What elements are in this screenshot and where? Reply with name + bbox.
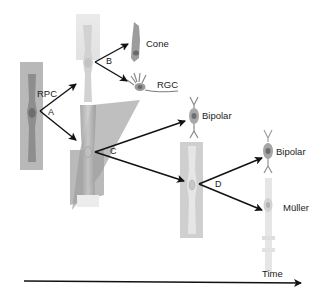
cone-body — [131, 22, 140, 62]
bipolar-cell-1 — [189, 97, 199, 138]
time-axis-arrow — [24, 281, 301, 283]
muller-endfoot-1 — [262, 236, 275, 240]
cone-nucleus — [133, 51, 139, 56]
bipolar1-axon — [190, 124, 198, 138]
early-progenitor-group — [76, 14, 100, 102]
late-progenitor-nucleus — [189, 180, 195, 190]
bipolar2-nucleus — [266, 148, 271, 154]
label-muller: Müller — [283, 203, 309, 213]
muller-endfoot-2 — [262, 248, 275, 252]
rpc-nucleus — [29, 108, 36, 118]
step-label-c: C — [110, 147, 117, 156]
retinal-lineage-diagram: RPC Cone RGC Bipolar Bipolar Müller A B … — [0, 0, 329, 298]
arrow-a-lower — [40, 111, 76, 140]
step-label-a: A — [48, 108, 54, 117]
rgc-dendrites — [127, 73, 146, 85]
muller-nucleus — [266, 202, 270, 208]
rpc-cell-group — [20, 62, 43, 170]
time-axis-label: Time — [262, 269, 283, 279]
step-label-b: B — [106, 57, 112, 66]
bipolar2-axon — [264, 159, 272, 173]
rgc-axon — [145, 90, 178, 92]
arrow-d-lower — [199, 184, 262, 210]
label-rgc: RGC — [157, 80, 178, 90]
rgc-nucleus — [138, 85, 143, 89]
cone-cell — [131, 22, 140, 62]
mid-progenitor-fade — [77, 195, 99, 207]
muller-cell — [262, 178, 275, 272]
mid-progenitor-nucleus — [85, 147, 92, 158]
arrow-d-upper — [199, 158, 262, 184]
bipolar1-nucleus — [192, 113, 197, 119]
step-label-d: D — [215, 180, 222, 189]
label-bipolar-1: Bipolar — [202, 111, 232, 121]
bipolar2-dendrites — [264, 130, 272, 142]
label-cone: Cone — [146, 39, 169, 49]
label-bipolar-2: Bipolar — [276, 147, 306, 157]
label-rpc: RPC — [37, 89, 57, 99]
bipolar1-dendrites — [190, 97, 198, 108]
early-progenitor-nucleus — [85, 58, 92, 68]
muller-process — [265, 178, 272, 272]
late-progenitor-group — [180, 142, 203, 238]
bipolar-cell-2 — [263, 130, 273, 173]
arrow-c-lower — [95, 152, 184, 181]
